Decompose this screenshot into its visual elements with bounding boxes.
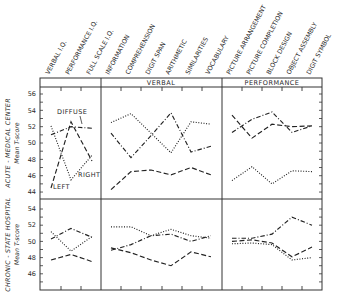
group-labels: VERBALPERFORMANCE	[147, 79, 300, 87]
y-axis-sublabel: Mean T-score	[13, 224, 20, 266]
annotation-right: RIGHT	[78, 171, 100, 179]
series-right	[232, 167, 312, 184]
y-tick-label: 52	[28, 221, 36, 229]
y-tick-label: 46	[28, 270, 36, 278]
y-tick-label: 52	[28, 123, 36, 131]
series-left	[111, 248, 211, 266]
y-tick-label: 54	[28, 107, 36, 115]
column-label: DIGIT SPAN	[144, 40, 167, 75]
y-tick-label: 46	[28, 172, 36, 180]
series-left	[51, 254, 92, 261]
y-axis-label: ACUTE - MEDICAL CENTER	[4, 98, 11, 189]
y-axis-sublabel: Mean T-score	[13, 122, 20, 164]
group-label-verbal: VERBAL	[147, 79, 176, 87]
y-tick-label: 50	[28, 238, 36, 246]
annotation-diffuse: DIFFUSE	[57, 108, 87, 116]
y-tick-label: 56	[28, 90, 36, 98]
y-axes: 44464850525456ACUTE - MEDICAL CENTERMean…	[4, 90, 322, 291]
series-right	[111, 227, 211, 238]
series-right	[232, 243, 312, 260]
group-label-performance: PERFORMANCE	[245, 79, 300, 87]
annotation-leader	[80, 116, 82, 124]
series-right	[111, 114, 211, 153]
series-diffuse	[232, 217, 312, 238]
annotation-left: LEFT	[53, 183, 70, 191]
y-tick-label: 54	[28, 205, 36, 213]
series-left	[232, 240, 312, 257]
y-axis-label: CHRONIC - STATE HOSPITAL	[4, 197, 11, 291]
column-labels: VERBAL I.Q.PERFORMANCE I.Q.FULL SCALE I.…	[44, 4, 333, 76]
y-tick-label: 50	[28, 139, 36, 147]
annotations: DIFFUSELEFTRIGHT	[53, 108, 100, 191]
y-tick-label: 44	[28, 188, 36, 196]
series-diffuse	[111, 113, 211, 158]
y-tick-label: 48	[28, 156, 36, 164]
series-left	[232, 115, 312, 138]
series-diffuse	[51, 127, 92, 135]
column-label: PICTURE COMPLETION	[245, 10, 284, 76]
chart: VERBAL I.Q.PERFORMANCE I.Q.FULL SCALE I.…	[0, 0, 337, 303]
series-left	[111, 168, 211, 190]
y-tick-label: 48	[28, 254, 36, 262]
data-series	[51, 112, 312, 266]
